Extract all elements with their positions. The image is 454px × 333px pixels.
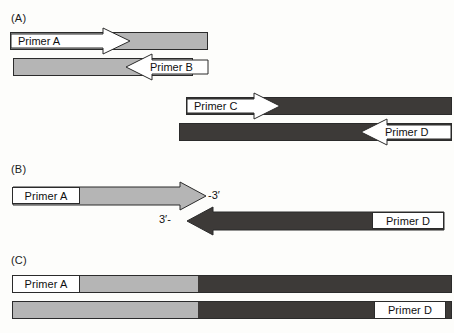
primer-b-label-a: Primer B — [150, 60, 193, 74]
primer-d-box-c: Primer D — [374, 301, 446, 319]
hybrid-top-dark-segment — [198, 275, 452, 293]
hybrid-bottom-light-segment — [12, 301, 198, 319]
panel-label-b: (B) — [11, 163, 26, 175]
primer-a-box-b: Primer A — [12, 187, 80, 204]
primer-a-box-c: Primer A — [12, 275, 80, 293]
panel-label-c: (C) — [11, 254, 27, 266]
panel-label-a: (A) — [11, 12, 26, 24]
pcr-primer-diagram: (A) Primer A Primer B Primer C Primer D … — [0, 0, 454, 333]
primer-d-label-a: Primer D — [385, 125, 428, 139]
primer-a-label-a: Primer A — [18, 34, 60, 48]
three-prime-label-dark-b: 3′- — [159, 213, 171, 225]
primer-c-label-a: Primer C — [194, 99, 237, 113]
primer-d-box-b: Primer D — [372, 212, 444, 229]
three-prime-label-light-b: -3′ — [208, 189, 220, 201]
